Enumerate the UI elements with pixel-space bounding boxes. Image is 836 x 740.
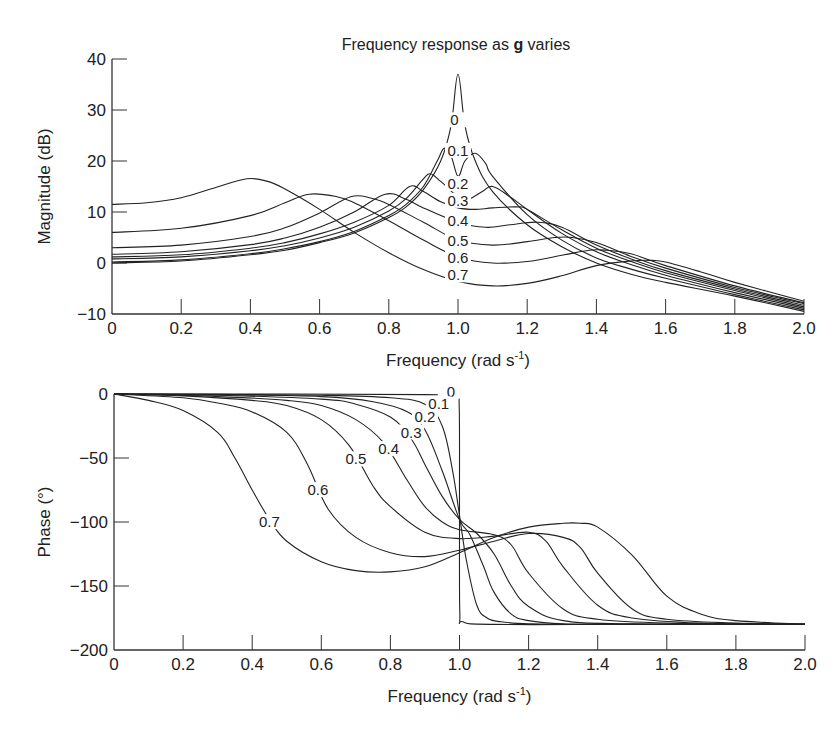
y-tick-label: 30 [87,101,106,120]
x-tick-label: 0 [109,655,118,674]
x-tick-label: 1.0 [448,655,472,674]
x-tick-label: 1.6 [654,319,678,338]
y-tick-label: −10 [77,305,106,324]
x-tick-label: 1.0 [446,319,470,338]
x-tick-label: 0.4 [239,319,263,338]
x-tick-label: 0.8 [379,655,403,674]
y-tick-label: 10 [87,203,106,222]
series-label-g-0.5: 0.5 [345,450,366,467]
series-line-g-0 [114,394,805,625]
x-tick-label: 1.6 [655,655,679,674]
x-tick-label: 0.6 [309,655,333,674]
series-label-g-0.3: 0.3 [401,424,422,441]
series-label-g-0.4: 0.4 [448,212,469,229]
y-axis-label: Phase (°) [35,486,54,557]
chart-title: Frequency response as g varies [342,36,571,53]
x-tick-label: 2.0 [793,655,817,674]
x-tick-label: 1.2 [515,319,539,338]
y-tick-label: −100 [70,513,108,532]
y-tick-label: −200 [70,641,108,660]
x-tick-label: 1.2 [517,655,541,674]
y-tick-label: −150 [70,577,108,596]
y-tick-label: 20 [87,152,106,171]
series-label-g-0.6: 0.6 [448,249,469,266]
x-axis-label: Frequency (rad s-1) [386,349,530,370]
x-tick-label: 0.4 [240,655,264,674]
y-axis-label: Magnitude (dB) [35,128,54,244]
x-tick-label: 2.0 [792,319,816,338]
frequency-response-figure: −1001020304000.20.40.60.81.01.21.41.61.8… [0,0,836,740]
x-tick-label: 0.6 [308,319,332,338]
x-tick-label: 1.8 [724,655,748,674]
series-label-g-0.6: 0.6 [307,481,328,498]
x-tick-label: 0.8 [377,319,401,338]
series-label-g-0.3: 0.3 [448,192,469,209]
magnitude-chart: −1001020304000.20.40.60.81.01.21.41.61.8… [35,36,816,370]
y-tick-label: −50 [79,449,108,468]
x-tick-label: 1.4 [585,319,609,338]
series-label-g-0.4: 0.4 [378,440,399,457]
x-tick-label: 0.2 [171,655,195,674]
x-tick-label: 0.2 [169,319,193,338]
series-label-g-0.5: 0.5 [448,232,469,249]
y-tick-label: 0 [99,385,108,404]
series-line-g-0.1 [112,148,804,310]
x-tick-label: 1.8 [723,319,747,338]
y-tick-label: 40 [87,50,106,69]
x-tick-label: 0 [107,319,116,338]
phase-chart: −200−150−100−50000.20.40.60.81.01.21.41.… [35,383,817,706]
series-label-g-0.1: 0.1 [448,142,469,159]
series-label-g-0.7: 0.7 [448,266,469,283]
series-label-g-0.2: 0.2 [448,175,469,192]
x-tick-label: 1.4 [586,655,610,674]
series-label-g-0.7: 0.7 [259,513,280,530]
series-label-g-0: 0 [450,111,458,128]
x-axis-label: Frequency (rad s-1) [388,685,532,706]
y-tick-label: 0 [97,254,106,273]
